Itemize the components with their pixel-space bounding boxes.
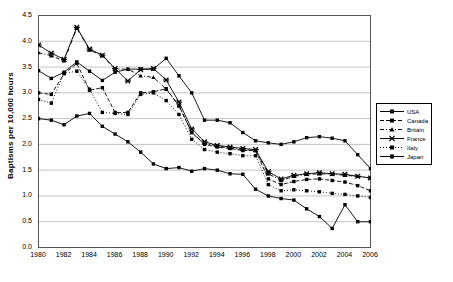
chart-container: Baptisms per 10,000 hours 0.00.51.01.52.… xyxy=(0,0,453,282)
legend-label-italy: Italy xyxy=(405,145,418,151)
y-tick-4-0: 4.0 xyxy=(4,37,32,44)
legend-item-usa: USA xyxy=(379,107,428,116)
legend-key-britain-icon xyxy=(379,125,405,134)
legend-item-canada: Canada xyxy=(379,116,428,125)
legend-key-japan-icon xyxy=(379,152,405,161)
y-tick-1-5: 1.5 xyxy=(4,166,32,173)
legend-label-canada: Canada xyxy=(405,118,428,124)
series-france xyxy=(38,25,371,181)
legend-item-japan: Japan xyxy=(379,152,428,161)
y-tick-2-5: 2.5 xyxy=(4,114,32,121)
legend-key-usa-icon xyxy=(379,107,405,116)
y-tick-0-0: 0.0 xyxy=(4,243,32,250)
x-tick-2006: 2006 xyxy=(355,251,385,258)
legend-key-france-icon xyxy=(379,134,405,143)
y-tick-3-5: 3.5 xyxy=(4,63,32,70)
legend-label-usa: USA xyxy=(405,109,419,115)
legend-item-italy: Italy xyxy=(379,143,428,152)
chart-legend: USACanadaBritainFranceItalyJapan xyxy=(376,103,432,165)
y-tick-3-0: 3.0 xyxy=(4,88,32,95)
y-tick-4-5: 4.5 xyxy=(4,11,32,18)
legend-key-italy-icon xyxy=(379,143,405,152)
series-britain xyxy=(38,26,371,182)
legend-label-france: France xyxy=(405,136,426,142)
legend-label-japan: Japan xyxy=(405,154,423,160)
y-tick-0-5: 0.5 xyxy=(4,217,32,224)
y-tick-1-0: 1.0 xyxy=(4,191,32,198)
y-tick-2-0: 2.0 xyxy=(4,140,32,147)
legend-label-britain: Britain xyxy=(405,127,424,133)
plot-area xyxy=(38,15,370,247)
legend-item-france: France xyxy=(379,134,428,143)
legend-key-canada-icon xyxy=(379,116,405,125)
legend-item-britain: Britain xyxy=(379,125,428,134)
